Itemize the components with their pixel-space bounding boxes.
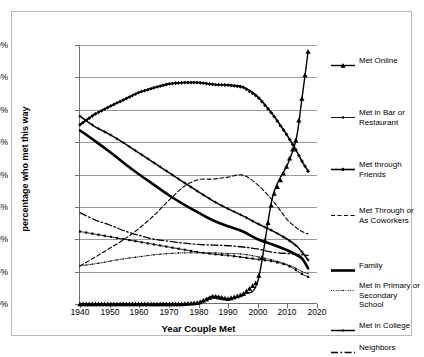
x-tick-label-1980: 1980 <box>190 307 209 317</box>
legend-label: Met in Bar or Restaurant <box>359 108 422 127</box>
y-axis-title: percentage who met this way <box>20 94 30 244</box>
x-tick-label-1940: 1940 <box>71 307 90 317</box>
y-tick-label-40: 40% <box>0 40 8 50</box>
series-diamond-line <box>78 81 310 174</box>
x-tick-label-1970: 1970 <box>160 307 179 317</box>
legend-item-neighbors[interactable]: Neighbors <box>330 343 422 355</box>
x-tick-label-1960: 1960 <box>130 307 149 317</box>
y-tick-label-10: 10% <box>0 234 8 244</box>
series-dot-line <box>79 252 309 274</box>
legend-label: Met in Primary or Secondary School <box>359 281 422 310</box>
legend-swatch <box>330 207 356 218</box>
x-axis-title: Year Couple Met <box>80 323 317 334</box>
y-tick-label-30: 30% <box>0 105 8 115</box>
series-thick-solid <box>80 130 308 268</box>
legend-label: Family <box>359 261 422 271</box>
series-dash-dot <box>80 213 308 256</box>
legend-key-square-line <box>330 112 356 123</box>
legend-item-met-through-friends[interactable]: Met through Friends <box>330 160 422 179</box>
legend-key-dot-line <box>330 285 356 296</box>
legend-key-thick-solid <box>330 265 356 276</box>
series-triangle-line <box>77 49 310 306</box>
legend-swatch <box>330 109 356 120</box>
y-tick-label-0: 0% <box>0 299 8 309</box>
legend-swatch <box>330 161 356 172</box>
legend-item-met-through-or-as-coworkers[interactable]: Met Through or As Coworkers <box>330 206 422 225</box>
legend-key-plus-line <box>330 325 356 336</box>
legend-item-met-in-bar-or-restaurant[interactable]: Met in Bar or Restaurant <box>330 108 422 127</box>
legend-swatch <box>330 344 356 355</box>
legend-swatch <box>330 57 356 68</box>
legend-swatch <box>330 282 356 293</box>
y-tick-label-15: 15% <box>0 202 8 212</box>
x-tick-label-2000: 2000 <box>249 307 268 317</box>
legend-item-met-online[interactable]: Met Online <box>330 56 422 68</box>
x-tick-label-2010: 2010 <box>278 307 297 317</box>
x-tick-label-1950: 1950 <box>101 307 120 317</box>
y-tick-label-25: 25% <box>0 137 8 147</box>
chart-figure: percentage who met this way <box>0 0 424 357</box>
x-tick-label-1990: 1990 <box>219 307 238 317</box>
legend-key-dashed <box>330 210 356 221</box>
series-layer <box>80 45 317 304</box>
legend-label: Neighbors <box>359 343 422 353</box>
x-tick-label-2020: 2020 <box>308 307 327 317</box>
legend-swatch <box>330 262 356 273</box>
legend-key-triangle-line <box>330 60 356 71</box>
legend-label: Met in College <box>359 321 422 331</box>
legend-item-met-in-primary-or-secondary-school[interactable]: Met in Primary or Secondary School <box>330 281 422 310</box>
y-tick-label-20: 20% <box>0 170 8 180</box>
y-tick-label-35: 35% <box>0 72 8 82</box>
chart-frame: percentage who met this way <box>11 11 412 336</box>
legend-item-met-in-college[interactable]: Met in College <box>330 321 422 333</box>
legend-label: Met Through or As Coworkers <box>359 206 422 225</box>
legend-label: Met Online <box>359 56 422 66</box>
legend-item-family[interactable]: Family <box>330 261 422 273</box>
legend-swatch <box>330 322 356 333</box>
legend-key-dash-dot <box>330 347 356 357</box>
plot-area: 40% 35% 30% 25% 20% 15% 10% 5% 0% 1940 1… <box>80 45 317 304</box>
series-square-line <box>79 230 309 278</box>
legend-label: Met through Friends <box>359 160 422 179</box>
legend-key-diamond-line <box>330 164 356 175</box>
y-tick-label-5: 5% <box>0 267 8 277</box>
